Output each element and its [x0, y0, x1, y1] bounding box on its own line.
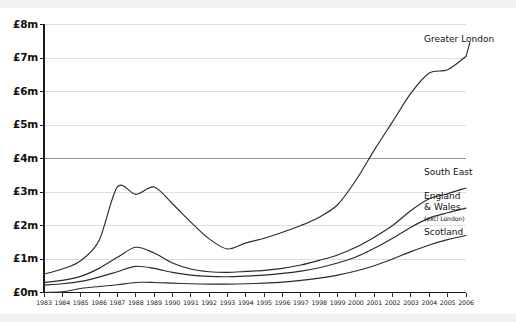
- series-line-england-wales: [44, 208, 466, 285]
- x-axis-tick-label: 2005: [440, 299, 456, 306]
- series-line-greater-london: [44, 56, 466, 274]
- x-axis-tick-label: 2006: [458, 299, 474, 306]
- y-axis-tick-label: £6m: [0, 86, 38, 96]
- y-axis-tick-label: £5m: [0, 119, 38, 129]
- x-axis-tick-label: 1990: [165, 299, 181, 306]
- series-label-england-wales-sub: (excl London): [424, 214, 465, 225]
- x-axis-tick-label: 1988: [128, 299, 144, 306]
- x-axis-tick-label: 1991: [183, 299, 199, 306]
- x-axis-tick-label: 1984: [55, 299, 71, 306]
- y-axis-tick-label: £1m: [0, 253, 38, 263]
- x-axis-tick-label: 1997: [293, 299, 309, 306]
- x-axis-tick-label: 1993: [220, 299, 236, 306]
- x-axis-tick-label: 1998: [311, 299, 327, 306]
- x-axis-tick-label: 1983: [36, 299, 52, 306]
- x-axis-tick-label: 2004: [421, 299, 437, 306]
- x-axis-tick-label: 1992: [201, 299, 217, 306]
- x-axis-tick-label: 2000: [348, 299, 364, 306]
- y-axis-tick-label: £0m: [0, 287, 38, 297]
- x-axis-tick-label: 1999: [330, 299, 346, 306]
- y-axis-tick-label: £3m: [0, 186, 38, 196]
- series-label-england-wales-line2: & Wales: [424, 202, 460, 213]
- series-label-greater-london: Greater London: [424, 34, 494, 45]
- x-axis-tick-label: 1996: [275, 299, 291, 306]
- chart-svg: [0, 0, 516, 322]
- y-axis-tick-label: £2m: [0, 220, 38, 230]
- x-axis-tick-label: 2002: [385, 299, 401, 306]
- y-axis-tick-label: £7m: [0, 52, 38, 62]
- x-axis-tick-label: 1989: [146, 299, 162, 306]
- chart-figure: £8m£7m£6m£5m£4m£3m£2m£1m£0m 198319841985…: [0, 0, 516, 322]
- x-axis-tick-label: 1994: [238, 299, 254, 306]
- x-axis-tick-label: 1986: [91, 299, 107, 306]
- x-axis-tick-label: 1995: [256, 299, 272, 306]
- series-label-scotland: Scotland: [424, 227, 463, 238]
- x-axis-tick-label: 2001: [366, 299, 382, 306]
- chart-plot-area: [0, 0, 516, 322]
- y-axis-tick-label: £8m: [0, 19, 38, 29]
- y-axis-tick-label: £4m: [0, 153, 38, 163]
- series-line-south-east: [44, 188, 466, 282]
- series-label-england-wales-line1: England: [424, 191, 461, 202]
- series-label-south-east: South East: [424, 167, 472, 178]
- x-axis-tick-label: 1985: [73, 299, 89, 306]
- x-axis-tick-label: 2003: [403, 299, 419, 306]
- x-axis-tick-label: 1987: [110, 299, 126, 306]
